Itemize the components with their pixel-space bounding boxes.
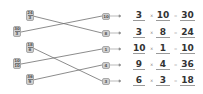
factor-a: 6: [133, 75, 145, 86]
matching-diagram: 24 3 30 3 18 6 10 10 36 9 10 8 1 4 3 3 ×…: [0, 0, 203, 94]
fraction-card-36-9[interactable]: 36 9: [26, 74, 34, 85]
product: 10: [180, 43, 195, 54]
equals-sign: =: [174, 13, 177, 18]
denominator: 3: [16, 32, 19, 36]
denominator: 3: [29, 16, 32, 20]
fraction-card-18-6[interactable]: 18 6: [26, 42, 34, 53]
result-box-1[interactable]: 1: [102, 46, 110, 53]
result-box-4[interactable]: 4: [102, 62, 110, 69]
fraction-card-30-3[interactable]: 30 3: [13, 26, 21, 37]
equals-sign: =: [174, 62, 177, 67]
equals-sign: =: [174, 46, 177, 51]
product: 30: [180, 10, 195, 21]
factor-b: 3: [156, 75, 170, 86]
product: 18: [180, 75, 195, 86]
equation-row: 6 × 3 = 18: [130, 75, 200, 87]
times-sign: ×: [150, 78, 153, 83]
equation-row: 3 × 10 = 30: [130, 10, 200, 22]
times-sign: ×: [150, 62, 153, 67]
arrows: [110, 15, 121, 82]
product: 24: [180, 27, 195, 38]
equals-sign: =: [174, 78, 177, 83]
fraction-card-10-10[interactable]: 10 10: [13, 58, 21, 69]
connector-line: [33, 65, 102, 80]
result-box-3[interactable]: 3: [102, 78, 110, 85]
times-sign: ×: [150, 30, 153, 35]
factor-b: 10: [156, 10, 170, 21]
product: 36: [180, 59, 195, 70]
factor-a: 10: [133, 43, 145, 54]
result-box-8[interactable]: 8: [102, 30, 110, 37]
factor-b: 1: [156, 43, 170, 54]
equation-row: 3 × 8 = 24: [130, 27, 200, 39]
fraction-card-24-3[interactable]: 24 3: [26, 10, 34, 21]
denominator: 9: [29, 80, 32, 84]
factor-a: 3: [133, 10, 145, 21]
denominator: 10: [14, 64, 20, 68]
connector-line: [33, 48, 102, 81]
equals-sign: =: [174, 30, 177, 35]
times-sign: ×: [150, 46, 153, 51]
connector-line: [33, 16, 102, 33]
factor-a: 9: [133, 59, 145, 70]
times-sign: ×: [150, 13, 153, 18]
factor-b: 8: [156, 27, 170, 38]
result-box-10[interactable]: 10: [102, 13, 110, 20]
equation-row: 9 × 4 = 36: [130, 59, 200, 71]
factor-b: 4: [156, 59, 170, 70]
denominator: 6: [29, 48, 32, 52]
equation-row: 10 × 1 = 10: [130, 43, 200, 55]
factor-a: 3: [133, 27, 145, 38]
